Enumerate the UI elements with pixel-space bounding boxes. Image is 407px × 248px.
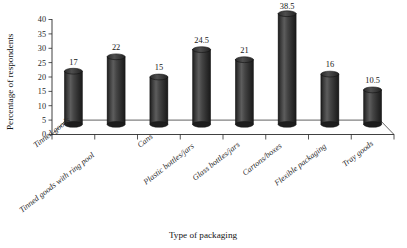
x-axis-category-labels: Tinned goods Tinned goods with ring pool… [18, 115, 375, 214]
y-tick-35: 35 [38, 30, 52, 39]
bar-item[interactable]: 38.5 [278, 2, 296, 127]
category-label: Tray goods [341, 139, 375, 169]
category-label: Tinned goods with ring pool [18, 150, 97, 214]
y-tick-label: 10 [38, 102, 46, 111]
bar-value-label: 24.5 [194, 36, 209, 45]
y-tick-label: 30 [38, 44, 46, 53]
bar-value-label: 10.5 [365, 76, 380, 85]
category-label: Plastic bottles/jars [141, 142, 196, 188]
bar-chart: Percentage of respondents 40 35 30 25 [0, 0, 407, 248]
bar-item[interactable]: 22 [107, 43, 125, 127]
y-tick-label: 35 [38, 30, 46, 39]
category-label: Cartons/boxes [241, 141, 284, 177]
y-axis-ticks: 40 35 30 25 20 15 [38, 15, 52, 139]
y-tick-label: 40 [38, 15, 46, 24]
y-axis-title: Percentage of respondents [5, 33, 15, 130]
x-axis-title-text: Type of packaging [169, 230, 238, 240]
y-axis-title-text: Percentage of respondents [5, 33, 15, 130]
y-tick-label: 25 [38, 59, 46, 68]
floor-plane [52, 120, 394, 134]
bar-item[interactable]: 10.5 [364, 76, 382, 127]
bar-item[interactable]: 24.5 [193, 36, 211, 127]
y-tick-25: 25 [38, 59, 52, 68]
bar-item[interactable]: 16 [321, 60, 339, 127]
y-tick-label: 5 [42, 116, 46, 125]
bar-value-label: 21 [240, 46, 248, 55]
chart-canvas: Percentage of respondents 40 35 30 25 [0, 0, 407, 248]
y-tick-label: 15 [38, 87, 46, 96]
y-tick-10: 10 [38, 102, 52, 111]
bar-value-label: 17 [69, 58, 77, 67]
y-tick-20: 20 [38, 73, 52, 82]
floor-right-diagonal [380, 120, 394, 134]
bar-item[interactable]: 15 [150, 63, 168, 127]
category-label: Glass bottles/jars [191, 140, 242, 183]
y-tick-15: 15 [38, 87, 52, 96]
y-tick-30: 30 [38, 44, 52, 53]
bar-item[interactable]: 21 [235, 46, 253, 127]
y-tick-40: 40 [38, 15, 52, 24]
bar-value-label: 15 [155, 63, 163, 72]
x-axis-ticks [52, 135, 394, 140]
y-tick-5: 5 [42, 116, 52, 125]
bar-group: 17 22 15 24.5 [64, 2, 381, 127]
bar-value-label: 38.5 [280, 2, 295, 11]
y-tick-label: 20 [38, 73, 46, 82]
bar-value-label: 22 [112, 43, 120, 52]
bar-value-label: 16 [326, 60, 334, 69]
